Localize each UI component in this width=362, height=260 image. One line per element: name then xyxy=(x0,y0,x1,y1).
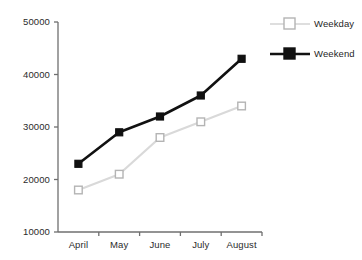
legend-label-weekday: Weekday xyxy=(314,18,354,29)
data-point xyxy=(197,92,204,99)
data-point xyxy=(116,129,123,136)
y-axis-tick-label: 40000 xyxy=(6,69,50,80)
series-line-weekend xyxy=(78,59,241,164)
data-point xyxy=(156,134,164,142)
y-axis-tick-label: 30000 xyxy=(6,121,50,132)
y-axis-tick-label: 10000 xyxy=(6,226,50,237)
y-axis-tick-label: 20000 xyxy=(6,174,50,185)
data-point xyxy=(75,186,83,194)
series-weekend xyxy=(75,55,245,167)
data-point xyxy=(238,102,246,110)
chart-legend: Weekday Weekend xyxy=(268,16,360,76)
data-point xyxy=(197,118,205,126)
legend-label-weekend: Weekend xyxy=(314,48,355,59)
data-point xyxy=(75,160,82,167)
data-point xyxy=(238,55,245,62)
legend-item-weekday: Weekday xyxy=(268,16,360,46)
line-chart: 1000020000300004000050000 AprilMayJuneJu… xyxy=(0,0,362,260)
y-axis-tick-label: 50000 xyxy=(6,16,50,27)
data-point xyxy=(157,113,164,120)
legend-marker-weekend-icon xyxy=(268,46,312,62)
legend-item-weekend: Weekend xyxy=(268,46,360,76)
x-axis-tick-label: August xyxy=(216,239,268,250)
legend-marker-weekday-icon xyxy=(268,16,312,32)
data-point xyxy=(115,170,123,178)
